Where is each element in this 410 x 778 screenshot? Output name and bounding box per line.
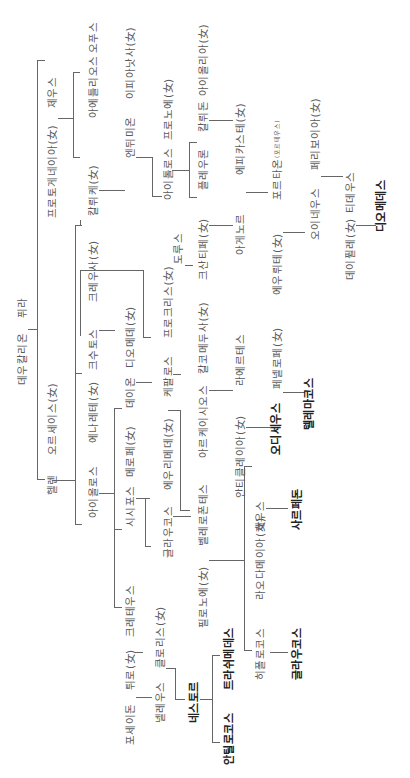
node-pelias_neleus: 넬레우스	[154, 681, 166, 723]
node-aiolia: 아이올리아(女)	[197, 24, 209, 96]
node-endymion: 엔뒤미온	[124, 116, 136, 158]
node-doros: 도루스	[172, 233, 184, 265]
node-antilochos: 안틸로코스	[224, 713, 236, 766]
node-enarete: 에나레테(女)	[87, 381, 99, 443]
node-hellen: 헬렌	[46, 474, 58, 495]
node-merope: 메로페(女)	[124, 426, 136, 477]
node-arkeisios: 아르케이시오스	[197, 385, 209, 459]
node-xouthos: 크수토스	[87, 328, 99, 370]
node-deipyle: 데이퓔레(女)	[344, 218, 356, 280]
node-telemachos: 텔레마코스	[304, 378, 316, 431]
node-kretheus: 크레테우스	[124, 585, 136, 638]
node-sisyphos: 시시포스	[124, 485, 136, 527]
node-kreousa: 크레우사(女)	[87, 240, 99, 302]
node-pleuron: 플레우론	[197, 148, 209, 190]
node-pyrrha: 퓌라	[16, 297, 28, 318]
node-chalkomedousa: 칼코메두사(女)	[197, 302, 209, 374]
node-penelope: 페넬로페(女)	[271, 327, 283, 389]
node-laertes: 라에르테스	[234, 334, 246, 387]
node-iphianassa: 이피아낫사(女)	[124, 27, 136, 99]
node-agenor: 아게노르	[234, 213, 246, 255]
node-glaukos: 글라우코스	[162, 506, 174, 559]
node-sarpedon: 사르페돈	[292, 488, 304, 530]
node-orseis: 오르세이스(女)	[46, 383, 58, 455]
node-bellerophontes: 벨레로폰테스	[197, 483, 209, 546]
node-deion: 데이온	[124, 377, 136, 409]
node-hippolochos: 히폴로코스	[254, 628, 266, 681]
node-aethlios: 아에틀리오스	[87, 55, 99, 118]
node-diomede: 디오메데(女)	[124, 306, 136, 368]
node-philonoe: 필로노에(女)	[197, 566, 209, 628]
node-protogeneia: 프로토게네이아(女)	[46, 125, 58, 218]
node-euryte: 에우뤼테(女)	[271, 233, 283, 295]
node-thrasymedes: 트라쉬메데스	[224, 627, 236, 690]
node-aiolos: 아이올로스	[87, 466, 99, 519]
node-antikleia: 안티클레이아(女)	[234, 415, 246, 498]
node-prokris: 프로크리스(女)	[162, 266, 174, 338]
node-aitolos: 아이톨로스	[162, 148, 174, 201]
node-poseidon: 포세이돈	[124, 703, 136, 745]
node-kalydon: 칼뤼돈	[197, 101, 209, 133]
node-pronoe: 프로노에(女)	[162, 78, 174, 140]
node-diomedes: 디오메데스	[376, 180, 388, 233]
node-epikaste: 에피카스테(女)	[234, 103, 246, 175]
node-kalyke: 칼뤼케(女)	[87, 165, 99, 216]
node-chloris: 클로리스(女)	[154, 606, 166, 668]
node-oineus: 오이네우스	[309, 188, 321, 241]
node-tyro: 튀로(女)	[124, 649, 136, 690]
node-deucalion: 데우칼리온	[16, 333, 28, 386]
node-odysseus: 오디세우스	[271, 403, 283, 456]
node-porthaon: 포르타온	[271, 158, 283, 200]
node-portheus: (포르테우스)	[271, 120, 283, 158]
node-nestor: 네스토르	[189, 681, 201, 723]
node-zeus2: 제우스	[254, 501, 266, 533]
node-glaukos2: 글라우코스	[292, 628, 304, 681]
node-xanthippe: 크산티페(女)	[197, 218, 209, 280]
node-opus: 오푸스	[87, 22, 99, 54]
node-kephalos: 케팔로스	[162, 355, 174, 397]
node-tydeus: 티데우스	[344, 171, 356, 213]
node-periboia: 페리보이아(女)	[309, 98, 321, 170]
node-zeus1: 제우스	[46, 77, 58, 109]
node-eurymede: 에우리메데(女)	[162, 418, 174, 490]
